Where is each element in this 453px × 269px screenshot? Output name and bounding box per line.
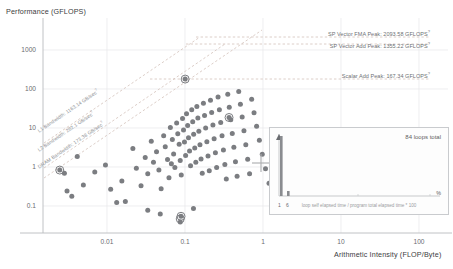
scatter-dot[interactable] [161,133,166,138]
scatter-dot[interactable] [75,154,80,159]
scatter-dot[interactable] [151,160,156,165]
scatter-dot[interactable] [214,165,219,170]
scatter-dot[interactable] [172,165,177,170]
scatter-dot[interactable] [186,135,191,140]
scatter-dot[interactable] [178,158,183,163]
scatter-dot[interactable] [230,131,235,136]
scatter-dot[interactable] [159,186,164,191]
scatter-dot[interactable] [185,123,190,128]
scatter-dot[interactable] [222,162,227,167]
scatter-dot[interactable] [165,157,170,162]
scatter-dot[interactable] [238,102,243,107]
scatter-dot[interactable] [69,194,74,199]
scatter-dot[interactable] [145,171,150,176]
scatter-dot[interactable] [212,136,217,141]
scatter-dot[interactable] [187,149,192,154]
scatter-dot[interactable] [192,145,197,150]
scatter-dot[interactable] [245,157,250,162]
scatter-dot[interactable] [235,174,240,179]
scatter-dot[interactable] [233,159,238,164]
scatter-dot[interactable] [169,161,174,166]
scatter-dot[interactable] [210,123,215,128]
scatter-dot[interactable] [188,163,193,168]
scatter-dot[interactable] [220,133,225,138]
scatter-dot[interactable] [201,101,206,106]
scatter-dot[interactable] [171,151,176,156]
scatter-dot[interactable] [196,129,201,134]
scatter-dot[interactable] [123,199,128,204]
scatter-dot[interactable] [257,138,262,143]
scatter-dot[interactable] [190,119,195,124]
scatter-dot[interactable] [213,150,218,155]
scatter-dot[interactable] [103,163,108,168]
peak-label-sp-vector-add[interactable]: SP Vector Add Peak: 1355.22 GFLOPS? [330,41,430,49]
scatter-dot[interactable] [181,127,186,132]
scatter-dot[interactable] [189,107,194,112]
scatter-dot[interactable] [208,98,213,103]
scatter-dot[interactable] [145,208,150,213]
scatter-dot[interactable] [65,189,70,194]
scatter-dot[interactable] [168,125,173,130]
scatter-dot[interactable] [203,126,208,131]
scatter-dot[interactable] [224,177,229,182]
scatter-dot[interactable] [206,154,211,159]
scatter-dot[interactable] [227,115,232,120]
scatter-dot[interactable] [254,124,259,129]
scatter-dot[interactable] [166,175,171,180]
scatter-dot[interactable] [193,160,198,165]
loop-distribution-inset-panel[interactable]: 84 loops total 1 6 % loop self elapsed t… [269,127,449,215]
scatter-dot[interactable] [225,92,230,97]
scatter-dot[interactable] [114,200,119,205]
scatter-dot[interactable] [191,206,196,211]
scatter-dot[interactable] [184,111,189,116]
scatter-dot[interactable] [240,114,245,119]
scatter-dot[interactable] [174,121,179,126]
scatter-dot[interactable] [247,171,252,176]
scatter-dot[interactable] [143,155,148,160]
scatter-dot[interactable] [227,105,232,110]
scatter-dot[interactable] [134,166,139,171]
scatter-dot[interactable] [200,171,205,176]
scatter-dot[interactable] [263,166,268,171]
scatter-dot[interactable] [199,156,204,161]
scatter-dot[interactable] [197,142,202,147]
scatter-dot[interactable] [57,168,62,173]
scatter-dot[interactable] [170,137,175,142]
scatter-dot[interactable] [216,95,221,100]
scatter-dot[interactable] [139,183,144,188]
scatter-dot[interactable] [119,179,124,184]
scatter-dot[interactable] [154,149,159,154]
scatter-dot[interactable] [182,140,187,145]
scatter-dot[interactable] [236,89,241,94]
scatter-dot[interactable] [195,116,200,121]
scatter-dot[interactable] [108,187,113,192]
scatter-dot[interactable] [218,120,223,125]
scatter-points[interactable] [57,77,285,225]
scatter-dot[interactable] [183,77,188,82]
scatter-dot[interactable] [183,153,188,158]
scatter-dot[interactable] [81,182,86,187]
scatter-dot[interactable] [202,113,207,118]
scatter-dot[interactable] [241,128,246,133]
scatter-dot[interactable] [175,131,180,136]
scatter-dot[interactable] [243,142,248,147]
peak-label-sp-vector-fma[interactable]: SP Vector FMA Peak: 2093.58 GFLOPS? [328,29,430,37]
scatter-dot[interactable] [92,170,97,175]
scatter-dot[interactable] [209,110,214,115]
scatter-dot[interactable] [191,132,196,137]
scatter-dot[interactable] [231,145,236,150]
scatter-dot[interactable] [163,144,168,149]
scatter-dot[interactable] [221,148,226,153]
scatter-dot[interactable] [130,146,135,151]
scatter-dot[interactable] [156,168,161,173]
peak-label-scalar-add[interactable]: Scalar Add Peak: 167.34 GFLOPS? [342,71,430,79]
scatter-dot[interactable] [177,142,182,147]
scatter-dot[interactable] [158,212,163,217]
scatter-dot[interactable] [180,116,185,121]
scatter-dot[interactable] [204,139,209,144]
scatter-dot[interactable] [149,139,154,144]
scatter-dot[interactable] [179,173,184,178]
scatter-dot[interactable] [194,104,199,109]
scatter-dot[interactable] [207,168,212,173]
scatter-dot[interactable] [217,107,222,112]
